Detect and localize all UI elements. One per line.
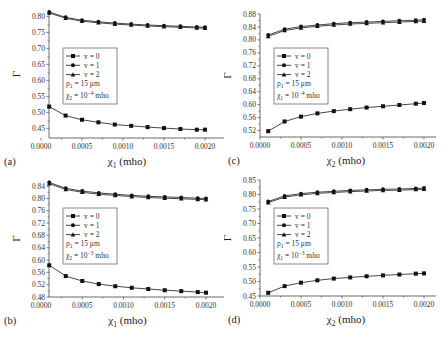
legend-param-chi: χ1 = 10−3 mho [277,250,320,261]
chart-panel-a: 0.450.500.550.600.650.700.750.800.00000.… [0,0,224,172]
legend-param-chi: χ2 = 10−4 mho [66,90,109,101]
y-tick-label: 0.60 [32,76,45,85]
series-v2 [47,181,208,201]
data-point-marker [381,104,385,108]
y-tick-label: 0.64 [32,243,45,252]
y-tick-label: 0.60 [32,256,45,265]
legend-entry-label: v = 0 [295,52,311,61]
data-point-marker [97,282,101,286]
series-v1 [266,18,426,37]
y-axis-title: Γ [224,72,233,78]
y-tick-label: 0.52 [32,280,45,289]
data-point-marker [146,287,150,291]
legend-entry-label: v = 0 [84,212,100,221]
x-axis-title: χ1 (mho) [107,155,147,170]
legend-entry-label: v = 2 [84,230,100,239]
y-tick-label: 0.85 [243,176,256,185]
x-tick-label: 0.0020 [196,301,217,310]
data-point-marker [64,114,68,118]
y-tick-label: 0.60 [243,100,256,109]
chart-panel-b: 0.480.520.560.600.640.680.720.760.800.84… [0,172,224,344]
x-tick-label: 0.0005 [291,300,312,309]
data-point-marker [195,128,199,132]
data-point-marker [196,290,200,294]
series-v0 [266,271,426,294]
x-tick-label: 0.0000 [250,300,271,309]
legend: v = 0v = 1v = 2ρ1 = 15 μmχ1 = 10−4 mho [274,48,328,104]
data-point-marker [422,271,426,275]
y-axis-title: Γ [10,235,22,241]
data-point-marker [80,279,84,283]
x-tick-label: 0.0010 [113,142,134,151]
data-point-marker [80,118,84,122]
legend: v = 0v = 1v = 2ρ1 = 15 μmχ2 = 10−3 mho [63,208,117,264]
legend-marker-icon [71,214,75,218]
panel-label: (a) [4,156,16,168]
data-point-marker [414,272,418,276]
y-tick-label: 0.70 [32,44,45,53]
data-point-marker [179,289,183,293]
x-tick-label: 0.0000 [31,142,52,151]
data-point-marker [113,284,117,288]
y-tick-label: 0.76 [32,206,45,215]
data-point-marker [365,274,369,278]
y-tick-label: 0.88 [243,10,256,19]
legend: v = 0v = 1v = 2ρ1 = 15 μmχ2 = 10−4 mho [63,48,117,104]
data-point-marker [414,102,418,106]
data-point-marker [96,120,100,124]
legend-entry-label: v = 2 [84,70,100,79]
legend-param-chi: χ1 = 10−4 mho [277,90,320,101]
data-point-marker [397,103,401,107]
chart-panel-d: 0.450.500.550.600.650.700.750.800.850.00… [224,172,448,344]
data-point-marker [315,278,319,282]
y-tick-label: 0.52 [243,126,256,135]
legend-param-chi: χ2 = 10−3 mho [66,250,109,261]
chart-panel-c: 0.520.560.600.640.680.720.760.800.840.88… [224,0,448,172]
series-v0 [47,105,207,132]
data-point-marker [130,286,134,290]
x-tick-label: 0.0020 [195,142,216,151]
y-tick-label: 0.50 [243,277,256,286]
data-point-marker [332,109,336,113]
legend-entry-label: v = 1 [84,221,100,230]
data-point-marker [204,291,208,295]
panel-label: (b) [4,315,17,327]
x-tick-label: 0.0015 [154,301,175,310]
legend-marker-icon [71,223,75,227]
data-point-marker [266,291,270,295]
legend-entry-label: v = 1 [84,61,100,70]
data-point-marker [47,105,51,109]
legend-entry-label: v = 0 [295,212,311,221]
data-point-marker [283,119,287,123]
series-v0 [266,101,426,133]
x-axis-title: χ2 (mho) [326,313,366,328]
x-tick-label: 0.0000 [31,301,52,310]
data-point-marker [365,106,369,110]
series-v1 [266,186,426,203]
x-tick-label: 0.0010 [332,300,353,309]
x-tick-label: 0.0005 [72,301,93,310]
x-tick-label: 0.0005 [291,141,312,150]
legend-marker-icon [71,63,75,67]
x-tick-label: 0.0015 [373,141,394,150]
y-axis-title: Γ [10,71,22,77]
y-tick-label: 0.84 [32,182,45,191]
data-point-marker [203,128,207,132]
legend-marker-icon [282,223,286,227]
legend-entry-label: v = 1 [295,61,311,70]
legend-entry-label: v = 2 [295,230,311,239]
legend-marker-icon [282,63,286,67]
data-point-marker [397,273,401,277]
axes: 0.450.500.550.600.650.700.750.800.850.00… [243,176,436,309]
x-axis-title: χ1 (mho) [107,314,147,329]
y-tick-label: 0.80 [32,12,45,21]
legend: v = 0v = 1v = 2ρ1 = 15 μmχ1 = 10−3 mho [274,208,328,264]
y-tick-label: 0.80 [243,190,256,199]
y-tick-label: 0.75 [243,205,256,214]
data-point-marker [162,126,166,130]
legend-marker-icon [71,54,75,58]
y-tick-label: 0.56 [243,113,256,122]
legend-entry-label: v = 2 [295,70,311,79]
y-tick-label: 0.68 [32,231,45,240]
x-tick-label: 0.0015 [154,142,175,151]
